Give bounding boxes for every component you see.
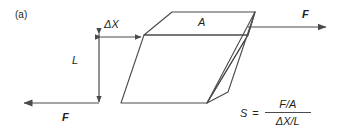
block-hidden-edge xyxy=(207,12,255,103)
formula-equals-sign: = xyxy=(252,107,258,119)
force-label-bottom: F xyxy=(62,112,69,123)
formula-denominator: ΔX/L xyxy=(270,113,306,127)
panel-label: (a) xyxy=(15,10,27,20)
shear-modulus-figure: (a) ΔX L A F F S = F/A ΔX/L xyxy=(0,0,343,140)
formula-numerator: F/A xyxy=(273,98,302,112)
block-front-face xyxy=(121,35,248,103)
length-label: L xyxy=(72,55,78,66)
area-label: A xyxy=(198,17,205,28)
sheared-block xyxy=(121,12,255,103)
force-label-top: F xyxy=(302,9,309,20)
formula-fraction: F/A ΔX/L xyxy=(265,98,311,127)
formula-symbol: S xyxy=(240,107,247,119)
shear-modulus-formula: S = F/A ΔX/L xyxy=(240,98,311,127)
delta-x-label: ΔX xyxy=(104,19,119,30)
